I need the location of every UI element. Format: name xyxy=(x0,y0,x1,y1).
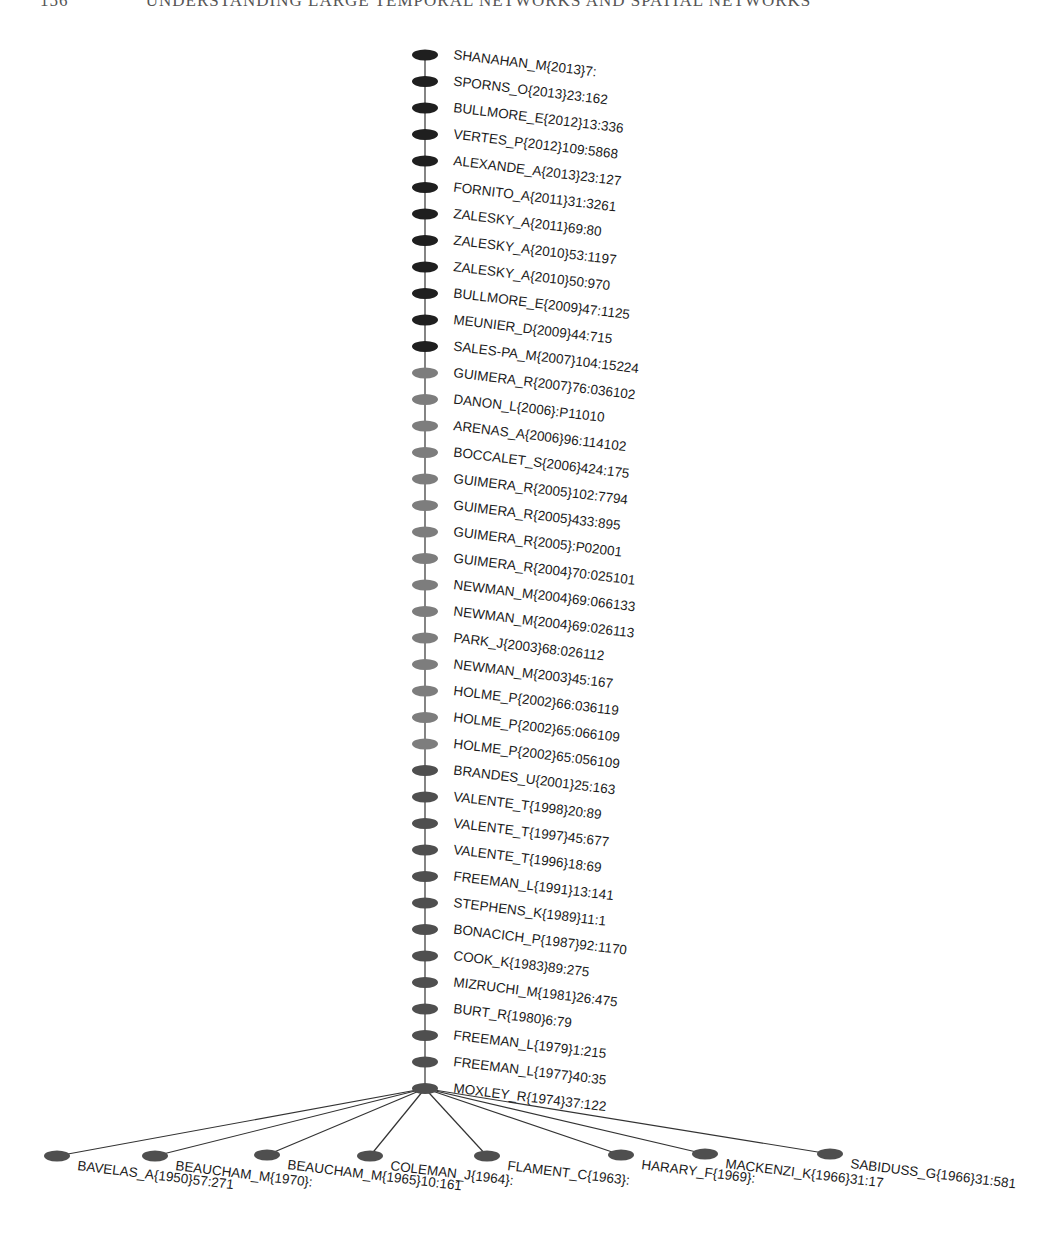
labels-layer: SHANAHAN_M{2013}7:SPORNS_O{2013}23:162BU… xyxy=(77,47,1017,1193)
paper-node[interactable] xyxy=(412,474,438,485)
paper-node[interactable] xyxy=(412,1004,438,1015)
paper-label: SHANAHAN_M{2013}7: xyxy=(453,47,598,79)
main-path-graph: SHANAHAN_M{2013}7:SPORNS_O{2013}23:162BU… xyxy=(0,0,1063,1249)
paper-node[interactable] xyxy=(412,262,438,273)
paper-node[interactable] xyxy=(608,1150,634,1161)
paper-node[interactable] xyxy=(412,527,438,538)
paper-node[interactable] xyxy=(412,50,438,61)
paper-node[interactable] xyxy=(412,898,438,909)
paper-node[interactable] xyxy=(254,1150,280,1161)
paper-node[interactable] xyxy=(412,235,438,246)
paper-node[interactable] xyxy=(412,818,438,829)
nodes-layer xyxy=(44,50,843,1162)
paper-node[interactable] xyxy=(412,103,438,114)
paper-node[interactable] xyxy=(412,315,438,326)
paper-node[interactable] xyxy=(412,1083,438,1094)
paper-node[interactable] xyxy=(412,156,438,167)
paper-node[interactable] xyxy=(692,1149,718,1160)
paper-node[interactable] xyxy=(357,1151,383,1162)
paper-node[interactable] xyxy=(142,1151,168,1162)
paper-node[interactable] xyxy=(412,977,438,988)
paper-node[interactable] xyxy=(412,871,438,882)
paper-label: FLAMENT_C{1963}: xyxy=(507,1158,631,1188)
paper-node[interactable] xyxy=(412,792,438,803)
paper-node[interactable] xyxy=(412,288,438,299)
paper-node[interactable] xyxy=(412,129,438,140)
paper-node[interactable] xyxy=(412,580,438,591)
citation-edge xyxy=(370,1089,425,1157)
paper-node[interactable] xyxy=(412,845,438,856)
paper-label: COOK_K{1983}89:275 xyxy=(453,948,590,980)
paper-node[interactable] xyxy=(412,447,438,458)
paper-node[interactable] xyxy=(412,739,438,750)
paper-node[interactable] xyxy=(412,951,438,962)
paper-node[interactable] xyxy=(412,76,438,87)
paper-node[interactable] xyxy=(817,1149,843,1160)
paper-label: BURT_R{1980}6:79 xyxy=(453,1001,573,1030)
citation-edge xyxy=(57,1089,425,1157)
paper-node[interactable] xyxy=(412,686,438,697)
paper-node[interactable] xyxy=(412,924,438,935)
paper-node[interactable] xyxy=(412,606,438,617)
paper-node[interactable] xyxy=(412,712,438,723)
paper-node[interactable] xyxy=(412,1057,438,1068)
edges-layer xyxy=(57,55,830,1156)
paper-node[interactable] xyxy=(412,209,438,220)
paper-node[interactable] xyxy=(412,394,438,405)
paper-node[interactable] xyxy=(412,421,438,432)
paper-node[interactable] xyxy=(412,182,438,193)
paper-node[interactable] xyxy=(474,1151,500,1162)
paper-node[interactable] xyxy=(412,553,438,564)
paper-node[interactable] xyxy=(412,659,438,670)
paper-node[interactable] xyxy=(412,341,438,352)
paper-node[interactable] xyxy=(44,1151,70,1162)
paper-node[interactable] xyxy=(412,633,438,644)
paper-node[interactable] xyxy=(412,368,438,379)
paper-node[interactable] xyxy=(412,500,438,511)
paper-label: MOXLEY_R{1974}37:122 xyxy=(453,1081,608,1115)
paper-node[interactable] xyxy=(412,765,438,776)
paper-node[interactable] xyxy=(412,1030,438,1041)
